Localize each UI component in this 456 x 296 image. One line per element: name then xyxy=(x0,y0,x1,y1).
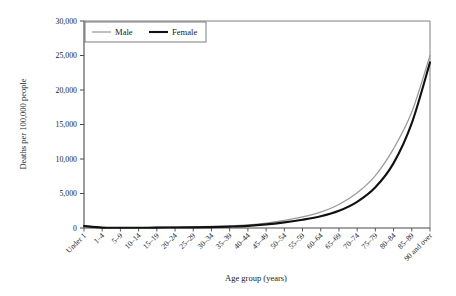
y-tick-label: 20,000 xyxy=(56,86,78,95)
y-tick-label: 30,000 xyxy=(56,17,78,26)
y-tick-label: 5,000 xyxy=(59,189,77,198)
chart-svg: 05,00010,00015,00020,00025,00030,000 Und… xyxy=(0,0,456,296)
y-tick-label: 0 xyxy=(73,224,77,233)
chart-legend: MaleFemale xyxy=(85,22,206,42)
chart-figure: 05,00010,00015,00020,00025,00030,000 Und… xyxy=(0,0,456,296)
x-axis-title: Age group (years) xyxy=(225,273,287,283)
y-tick-label: 25,000 xyxy=(56,51,78,60)
legend-label-female: Female xyxy=(172,27,197,37)
y-axis-title: Deaths per 100,000 people xyxy=(18,78,28,169)
legend-label-male: Male xyxy=(115,27,133,37)
y-tick-label: 10,000 xyxy=(56,155,78,164)
y-tick-label: 15,000 xyxy=(56,120,78,129)
